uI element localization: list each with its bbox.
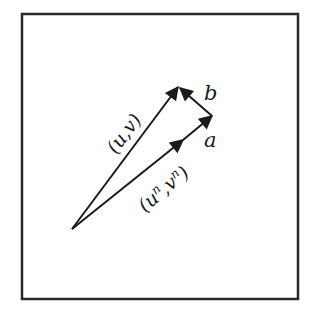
diagram-frame [22, 14, 298, 299]
label-a: a [204, 128, 217, 152]
label-uv: (u,v) [102, 109, 146, 157]
label-b: b [204, 81, 217, 105]
label-unvn: (un,vn) [133, 161, 193, 216]
vector-diagram: (u,v) (un,vn) a b [0, 0, 317, 316]
svg-text:(un,vn): (un,vn) [133, 161, 193, 216]
